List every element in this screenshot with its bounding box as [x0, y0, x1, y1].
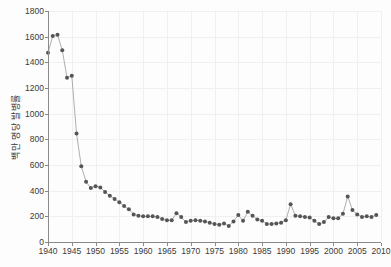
x-axis-tick-label: 1955 — [110, 246, 129, 256]
data-point — [327, 215, 331, 219]
data-point — [174, 211, 178, 215]
data-point — [51, 34, 55, 38]
data-point — [289, 202, 293, 206]
data-point — [255, 218, 259, 222]
gridline-vertical — [381, 11, 382, 242]
data-point — [79, 164, 83, 168]
y-axis-tick-mark — [45, 216, 48, 217]
data-point — [360, 215, 364, 219]
data-point — [346, 194, 350, 198]
incidence-markers — [46, 33, 378, 228]
x-axis-tick-label: 1985 — [253, 246, 272, 256]
data-point — [270, 222, 274, 226]
data-point — [136, 214, 140, 218]
data-point — [355, 212, 359, 216]
data-point — [350, 208, 354, 212]
data-point — [122, 204, 126, 208]
data-point — [60, 48, 64, 52]
data-point — [170, 218, 174, 222]
x-axis-tick-label: 1995 — [300, 246, 319, 256]
data-point — [56, 33, 60, 37]
y-axis-tick-label: 0 — [0, 238, 44, 246]
data-point — [241, 219, 245, 223]
y-axis-tick-label: 600 — [0, 161, 44, 169]
data-point — [108, 194, 112, 198]
data-point — [75, 132, 79, 136]
data-point — [127, 207, 131, 211]
y-axis-tick-label: 1600 — [0, 33, 44, 41]
y-axis-tick-mark — [45, 88, 48, 89]
data-point — [236, 213, 240, 217]
data-point — [65, 76, 69, 80]
y-axis-tick-mark — [45, 11, 48, 12]
data-point — [160, 217, 164, 221]
data-point — [303, 215, 307, 219]
data-point — [374, 213, 378, 217]
data-point — [365, 214, 369, 218]
y-axis-tick-label: 1200 — [0, 84, 44, 92]
chart-container: 백만 명당 발병률 020040060080010001200140016001… — [0, 0, 391, 267]
y-axis-tick-label: 400 — [0, 187, 44, 195]
x-axis-tick-labels: 1940194519501955196019651970197519801985… — [0, 246, 391, 260]
y-axis-tick-label: 200 — [0, 212, 44, 220]
x-axis-tick-label: 1960 — [134, 246, 153, 256]
data-point — [213, 222, 217, 226]
data-point — [251, 214, 255, 218]
y-axis-tick-mark — [45, 191, 48, 192]
data-point — [89, 186, 93, 190]
data-point — [279, 221, 283, 225]
y-axis-tick-mark — [45, 37, 48, 38]
y-axis-tick-mark — [45, 62, 48, 63]
data-point — [165, 218, 169, 222]
y-axis-tick-mark — [45, 139, 48, 140]
data-point — [274, 221, 278, 225]
data-point — [84, 180, 88, 184]
x-axis-tick-label: 1965 — [157, 246, 176, 256]
data-point — [117, 200, 121, 204]
data-point — [293, 214, 297, 218]
data-point — [184, 220, 188, 224]
data-point — [208, 221, 212, 225]
data-point — [260, 219, 264, 223]
data-point — [193, 218, 197, 222]
data-point — [198, 219, 202, 223]
data-point — [103, 190, 107, 194]
plot-area — [48, 11, 381, 242]
data-point — [308, 216, 312, 220]
data-point — [132, 212, 136, 216]
y-axis-tick-label: 1800 — [0, 7, 44, 15]
data-point — [179, 215, 183, 219]
data-point — [298, 214, 302, 218]
y-axis-tick-mark — [45, 114, 48, 115]
data-point — [94, 184, 98, 188]
x-axis-tick-label: 2010 — [372, 246, 391, 256]
data-point — [227, 224, 231, 228]
data-point — [331, 216, 335, 220]
x-axis-tick-label: 1990 — [276, 246, 295, 256]
data-point — [151, 214, 155, 218]
data-point — [336, 216, 340, 220]
data-point — [189, 219, 193, 223]
data-point — [141, 214, 145, 218]
y-axis-tick-mark — [45, 165, 48, 166]
y-axis-line — [48, 11, 49, 242]
x-axis-tick-label: 2000 — [324, 246, 343, 256]
data-point — [322, 220, 326, 224]
data-point — [217, 223, 221, 227]
data-point — [369, 215, 373, 219]
data-point — [146, 214, 150, 218]
data-point — [155, 215, 159, 219]
x-axis-tick-label: 1950 — [86, 246, 105, 256]
data-point — [284, 218, 288, 222]
data-point — [341, 212, 345, 216]
x-axis-tick-label: 1980 — [229, 246, 248, 256]
data-point — [232, 219, 236, 223]
data-point — [222, 221, 226, 225]
data-point — [246, 210, 250, 214]
x-axis-tick-label: 1975 — [205, 246, 224, 256]
y-axis-tick-labels: 020040060080010001200140016001800 — [0, 0, 44, 267]
chart-title — [0, 0, 391, 7]
data-point — [98, 185, 102, 189]
data-point — [317, 222, 321, 226]
x-axis-tick-label: 1940 — [39, 246, 58, 256]
